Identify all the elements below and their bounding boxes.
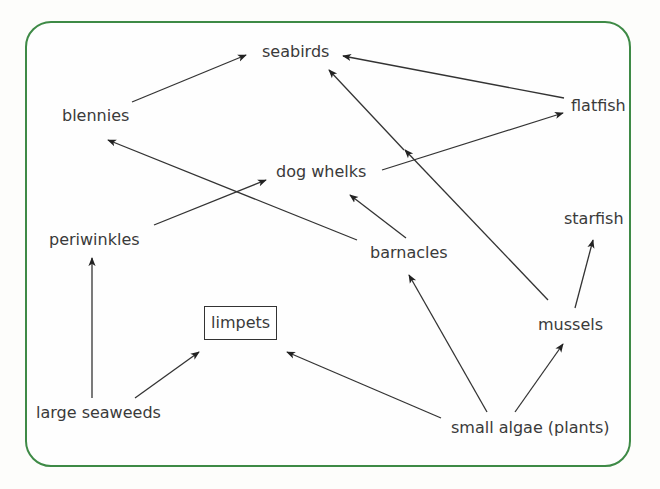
arrow-dogwhelks-to-flatfish: [382, 113, 563, 170]
node-large-seaweeds: large seaweeds: [36, 405, 161, 421]
arrow-blennies-to-seabirds: [132, 55, 246, 102]
arrow-largeseaweeds-to-limpets: [135, 352, 199, 398]
node-barnacles: barnacles: [370, 245, 448, 261]
arrow-smallalgae-to-mussels: [515, 344, 563, 412]
arrow-periwinkles-to-dogwhelks: [154, 180, 266, 225]
arrow-smallalgae-to-limpets: [287, 352, 441, 418]
arrow-mussels-to-seabirds-upper: [329, 70, 404, 150]
arrow-mussels-to-starfish: [575, 240, 593, 308]
arrow-barnacles-to-dogwhelks: [350, 195, 406, 238]
node-blennies: blennies: [62, 108, 129, 124]
node-mussels: mussels: [538, 317, 603, 333]
node-starfish: starfish: [564, 211, 624, 227]
arrow-flatfish-to-seabirds: [343, 56, 564, 98]
node-periwinkles: periwinkles: [49, 232, 140, 248]
node-small-algae: small algae (plants): [451, 420, 609, 436]
arrow-smallalgae-to-barnacles: [409, 275, 487, 412]
node-flatfish: flatfish: [571, 98, 626, 114]
arrow-mussels-to-seabirds: [405, 150, 548, 300]
arrow-barnacles-to-blennies: [108, 140, 357, 240]
node-limpets: limpets: [204, 306, 277, 340]
node-seabirds: seabirds: [262, 44, 329, 60]
node-dog-whelks: dog whelks: [276, 164, 366, 180]
